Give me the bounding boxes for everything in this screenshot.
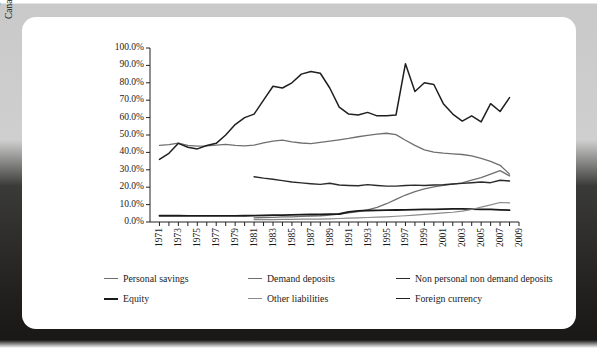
y-tick-label: 60.0% — [98, 112, 144, 122]
legend-line-icon — [396, 298, 410, 299]
y-tick-label: 0.0% — [98, 216, 144, 226]
x-tick-label: 1971 — [154, 228, 164, 247]
legend-line-icon — [248, 278, 262, 279]
y-tick-label: 30.0% — [98, 164, 144, 174]
legend-line-icon — [248, 298, 262, 299]
legend-line-icon — [104, 298, 118, 300]
line-chart: Percentage of total Canadian dollar liab… — [0, 0, 597, 358]
legend-line-icon — [396, 278, 410, 279]
x-tick-label: 2001 — [438, 228, 448, 247]
x-tick-label: 1993 — [363, 228, 373, 247]
x-tick-label: 1991 — [344, 228, 354, 247]
series-line-foreign-currency — [159, 64, 509, 160]
y-tick-label: 90.0% — [98, 59, 144, 69]
legend-item[interactable]: Equity — [104, 293, 149, 304]
x-tick-label: 1989 — [325, 228, 335, 247]
x-tick-label: 1973 — [173, 228, 183, 247]
legend-item[interactable]: Demand deposits — [248, 273, 335, 284]
x-tick-label: 1977 — [211, 228, 221, 247]
series-line-non-personal-non-demand-deposits — [254, 177, 509, 186]
x-tick-label: 2003 — [457, 228, 467, 247]
chart-legend: Personal savingsDemand depositsNon perso… — [104, 273, 534, 315]
x-tick-label: 1995 — [382, 228, 392, 247]
x-tick-label: 1985 — [287, 228, 297, 247]
x-tick-label: 2007 — [495, 228, 505, 247]
x-tick-label: 1983 — [268, 228, 278, 247]
legend-label: Equity — [123, 293, 149, 304]
x-tick-label: 1979 — [230, 228, 240, 247]
series-line-equity — [159, 209, 509, 216]
x-tick-label: 1975 — [192, 228, 202, 247]
legend-item[interactable]: Foreign currency — [396, 293, 482, 304]
y-tick-label: 100.0% — [98, 42, 144, 52]
legend-label: Foreign currency — [415, 293, 482, 304]
legend-label: Non personal non demand deposits — [415, 273, 553, 284]
legend-label: Demand deposits — [267, 273, 335, 284]
legend-line-icon — [104, 278, 118, 279]
legend-item[interactable]: Other liabilities — [248, 293, 328, 304]
y-tick-label: 40.0% — [98, 146, 144, 156]
x-tick-label: 1997 — [400, 228, 410, 247]
y-tick-label: 50.0% — [98, 129, 144, 139]
x-tick-label: 2009 — [514, 228, 524, 247]
series-line-personal-savings — [159, 133, 509, 174]
legend-label: Other liabilities — [267, 293, 328, 304]
y-axis-label-line-2: Canadian dollar liabilities — [4, 0, 16, 60]
x-tick-label: 1981 — [249, 228, 259, 247]
legend-label: Personal savings — [123, 273, 189, 284]
y-tick-label: 10.0% — [98, 199, 144, 209]
legend-item[interactable]: Personal savings — [104, 273, 189, 284]
y-tick-label: 70.0% — [98, 94, 144, 104]
legend-item[interactable]: Non personal non demand deposits — [396, 273, 553, 284]
y-tick-label: 80.0% — [98, 77, 144, 87]
y-tick-label: 20.0% — [98, 181, 144, 191]
x-tick-label: 1999 — [419, 228, 429, 247]
x-tick-label: 1987 — [306, 228, 316, 247]
x-tick-label: 2005 — [476, 228, 486, 247]
